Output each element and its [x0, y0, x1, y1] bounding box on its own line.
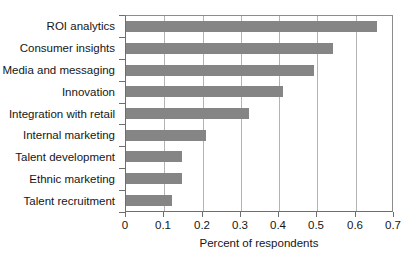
x-axis-tick-label: 0.3	[220, 219, 260, 232]
bars-layer	[126, 16, 392, 211]
bar-row	[126, 81, 392, 103]
bar	[126, 21, 377, 32]
x-axis-tick-label: 0.4	[258, 219, 298, 232]
bar-row	[126, 59, 392, 81]
y-axis-category-labels: ROI analyticsConsumer insightsMedia and …	[0, 15, 120, 212]
y-axis-category-label-cell: Internal marketing	[0, 124, 120, 146]
bar	[126, 86, 283, 97]
plot-area	[125, 15, 393, 212]
x-axis-tick-label: 0.6	[335, 219, 375, 232]
y-axis-category-label-cell: Ethnic marketing	[0, 168, 120, 190]
y-axis-category-label-cell: Integration with retail	[0, 103, 120, 125]
horizontal-bar-chart: ROI analyticsConsumer insightsMedia and …	[0, 0, 416, 277]
y-axis-category-label-cell: Consumer insights	[0, 37, 120, 59]
x-axis-title: Percent of respondents	[125, 237, 393, 250]
y-axis-category-label: Internal marketing	[23, 129, 115, 141]
bar	[126, 108, 249, 119]
bar-row	[126, 189, 392, 211]
bar	[126, 43, 333, 54]
bar-row	[126, 103, 392, 125]
x-axis-tick-label: 0.2	[182, 219, 222, 232]
x-axis-tick-mark	[278, 212, 279, 217]
y-axis-category-label: Ethnic marketing	[29, 173, 115, 185]
x-axis-tick-mark	[393, 212, 394, 217]
y-axis-category-label-cell: Media and messaging	[0, 59, 120, 81]
y-axis-category-label-cell: Innovation	[0, 81, 120, 103]
x-axis-tick-label: 0.1	[143, 219, 183, 232]
y-axis-category-label-cell: ROI analytics	[0, 15, 120, 37]
y-axis-category-label-cell: Talent development	[0, 146, 120, 168]
y-axis-category-label: Media and messaging	[2, 64, 115, 76]
y-axis-category-label: Innovation	[62, 86, 115, 98]
y-axis-category-label: ROI analytics	[47, 20, 115, 32]
y-axis-category-label: Consumer insights	[20, 42, 115, 54]
x-axis-tick-label: 0.7	[373, 219, 413, 232]
y-axis-category-label-cell: Talent recruitment	[0, 190, 120, 212]
x-axis-tick-mark	[240, 212, 241, 217]
x-axis-tick-mark	[202, 212, 203, 217]
bar	[126, 173, 182, 184]
x-axis-tick-label: 0	[105, 219, 145, 232]
x-axis-tick-mark	[163, 212, 164, 217]
x-axis-tick-mark	[316, 212, 317, 217]
bar	[126, 65, 314, 76]
x-axis-tick-label: 0.5	[296, 219, 336, 232]
bar	[126, 195, 172, 206]
bar	[126, 130, 206, 141]
bar-row	[126, 38, 392, 60]
x-axis-tick-mark	[125, 212, 126, 217]
y-axis-category-label: Talent development	[15, 151, 115, 163]
bar-row	[126, 168, 392, 190]
y-axis-category-label: Integration with retail	[9, 108, 115, 120]
x-axis-tick-mark	[355, 212, 356, 217]
bar	[126, 151, 182, 162]
bar-row	[126, 124, 392, 146]
bar-row	[126, 16, 392, 38]
y-axis-category-label: Talent recruitment	[24, 195, 115, 207]
bar-row	[126, 146, 392, 168]
